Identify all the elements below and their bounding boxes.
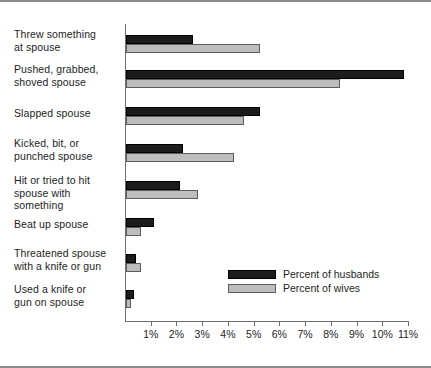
bar-wives <box>126 44 260 53</box>
bar-group <box>126 35 260 53</box>
x-tick-label: 1% <box>143 328 158 341</box>
x-tick-label: 11% <box>398 328 418 341</box>
legend-label: Percent of husbands <box>283 267 379 281</box>
plot-area: Threw somethingat spousePushed, grabbed,… <box>0 2 431 368</box>
category-label-line: Threw something <box>14 28 120 41</box>
x-tick <box>279 321 280 326</box>
x-tick <box>176 321 177 326</box>
category-label-line: Beat up spouse <box>14 218 120 231</box>
x-tick-label: 9% <box>349 328 364 341</box>
category-label-line: at spouse <box>14 41 120 54</box>
category-label-line: Pushed, grabbed, <box>14 63 120 76</box>
bar-husbands <box>126 181 180 190</box>
x-tick-label: 10% <box>372 328 393 341</box>
legend-swatch-husbands <box>228 270 276 279</box>
chart-legend: Percent of husbandsPercent of wives <box>228 267 379 295</box>
bar-group <box>126 107 260 125</box>
bar-group <box>126 181 198 199</box>
category-label-line: with a knife or gun <box>14 260 120 273</box>
x-tick <box>228 321 229 326</box>
x-tick-label: 3% <box>195 328 210 341</box>
bar-husbands <box>126 218 154 227</box>
legend-label: Percent of wives <box>283 281 360 295</box>
legend-swatch-wives <box>228 284 276 293</box>
bar-wives <box>126 190 198 199</box>
category-label: Used a knife orgun on spouse <box>14 283 120 308</box>
x-tick <box>408 321 409 326</box>
x-tick-label: 8% <box>323 328 338 341</box>
bar-group <box>126 254 141 272</box>
bar-husbands <box>126 35 193 44</box>
chart-figure: Threw somethingat spousePushed, grabbed,… <box>0 0 431 368</box>
category-label-line: Slapped spouse <box>14 107 120 120</box>
category-label: Slapped spouse <box>14 107 120 120</box>
x-tick-label: 2% <box>169 328 184 341</box>
x-tick-label: 5% <box>246 328 261 341</box>
category-label-line: gun on spouse <box>14 296 120 309</box>
x-tick-label: 4% <box>220 328 235 341</box>
bar-husbands <box>126 70 404 79</box>
x-tick-label: 7% <box>298 328 313 341</box>
category-label-line: Hit or tried to hit <box>14 174 120 187</box>
y-axis-line <box>125 24 126 321</box>
bar-wives <box>126 79 340 88</box>
bar-husbands <box>126 290 134 299</box>
bar-group <box>126 218 154 236</box>
category-label-line: punched spouse <box>14 150 120 163</box>
bar-husbands <box>126 107 260 116</box>
x-tick <box>151 321 152 326</box>
bar-group <box>126 290 134 308</box>
x-tick <box>305 321 306 326</box>
x-tick-label: 6% <box>272 328 287 341</box>
bar-wives <box>126 263 141 272</box>
category-label: Beat up spouse <box>14 218 120 231</box>
legend-item: Percent of wives <box>228 281 379 295</box>
category-label: Threatened spousewith a knife or gun <box>14 247 120 272</box>
x-tick <box>382 321 383 326</box>
category-label: Hit or tried to hitspouse withsomething <box>14 174 120 212</box>
bar-wives <box>126 299 131 308</box>
x-tick <box>331 321 332 326</box>
x-tick <box>202 321 203 326</box>
category-label-line: shoved spouse <box>14 76 120 89</box>
x-tick <box>357 321 358 326</box>
category-label-line: Threatened spouse <box>14 247 120 260</box>
bar-husbands <box>126 254 136 263</box>
category-label: Kicked, bit, orpunched spouse <box>14 137 120 162</box>
bar-group <box>126 144 234 162</box>
bar-husbands <box>126 144 183 153</box>
category-label-line: Kicked, bit, or <box>14 137 120 150</box>
x-axis-line <box>125 321 409 322</box>
bar-wives <box>126 227 141 236</box>
category-label: Pushed, grabbed,shoved spouse <box>14 63 120 88</box>
bar-group <box>126 70 404 88</box>
category-label-line: something <box>14 199 120 212</box>
bar-wives <box>126 116 244 125</box>
category-label-line: Used a knife or <box>14 283 120 296</box>
x-tick <box>254 321 255 326</box>
legend-item: Percent of husbands <box>228 267 379 281</box>
category-label: Threw somethingat spouse <box>14 28 120 53</box>
bar-wives <box>126 153 234 162</box>
category-label-line: spouse with <box>14 187 120 200</box>
